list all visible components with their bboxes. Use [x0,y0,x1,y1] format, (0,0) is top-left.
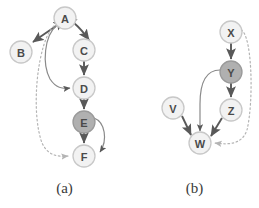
edge-a-f-dotted [36,26,68,156]
node-b[interactable]: B [10,41,32,63]
edge-z-w [211,118,222,136]
node-v[interactable]: V [162,97,184,119]
node-x[interactable]: X [220,21,242,43]
node-z[interactable]: Z [220,99,242,121]
node-f[interactable]: F [73,145,95,167]
edge-a-d [45,25,70,88]
edge-v-w [182,116,191,135]
caption-panel-b: (b) [130,178,259,198]
node-a[interactable]: A [54,7,76,29]
figure-root: A B C D E [0,0,259,208]
node-y[interactable]: Y [220,61,242,83]
graph-b: X Y Z V W [130,0,259,180]
node-c[interactable]: C [73,39,95,61]
panel-b: X Y Z V W (b) [130,0,259,208]
edge-a-c [74,23,89,40]
node-w[interactable]: W [189,132,211,154]
caption-panel-a: (a) [0,178,129,198]
edges-b [182,30,251,144]
graph-a: A B C D E [0,0,129,180]
edge-a-b [33,26,56,42]
panel-a: A B C D E [0,0,129,208]
edge-x-w-dotted [215,30,251,144]
node-e[interactable]: E [73,111,95,133]
edge-y-w-curve [200,70,220,131]
node-d[interactable]: D [73,77,95,99]
